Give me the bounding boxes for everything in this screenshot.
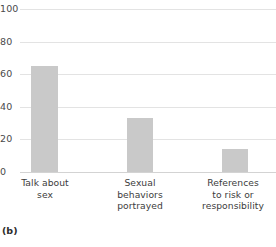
figure-panel-b: 100 80 60 40 20 0 Talk about sex Sexual …: [0, 0, 276, 247]
bar-sexual-behaviors-portrayed: [127, 118, 153, 172]
xtick-label-line: sex: [0, 189, 90, 201]
gridline-40: [20, 107, 276, 108]
xtick-label-line: responsibility: [190, 200, 276, 212]
xtick-label-line: behaviors: [95, 189, 185, 201]
xtick-label-references-to-risk-or-responsibility: References to risk or responsibility: [190, 177, 276, 212]
xtick-label-line: portrayed: [95, 200, 185, 212]
xtick-label-line: References: [190, 177, 276, 189]
ytick-label-80: 80: [0, 37, 20, 47]
xtick-label-line: Sexual: [95, 177, 185, 189]
bar-references-to-risk-or-responsibility: [222, 149, 248, 172]
ytick-label-100: 100: [0, 4, 20, 14]
ytick-label-0: 0: [0, 167, 20, 177]
gridline-100: [20, 9, 276, 10]
gridline-80: [20, 42, 276, 43]
xtick-label-talk-about-sex: Talk about sex: [0, 177, 90, 200]
xtick-label-line: to risk or: [190, 189, 276, 201]
x-axis-line: [20, 172, 276, 173]
xtick-label-line: Talk about: [0, 177, 90, 189]
ytick-label-40: 40: [0, 102, 20, 112]
bar-chart-plot-area: [20, 9, 276, 172]
ytick-label-20: 20: [0, 134, 20, 144]
gridline-60: [20, 74, 276, 75]
ytick-label-60: 60: [0, 69, 20, 79]
xtick-label-sexual-behaviors-portrayed: Sexual behaviors portrayed: [95, 177, 185, 212]
bar-talk-about-sex: [31, 66, 58, 172]
panel-label: (b): [2, 225, 17, 236]
